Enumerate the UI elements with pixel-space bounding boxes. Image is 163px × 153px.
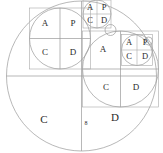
small-top-circle-label-d: D [101,15,107,25]
mid-right-circle-label-a: A [100,44,107,54]
top-left-circle-label-d: D [70,47,77,57]
main-circle-label-c: C [40,113,47,125]
diagram-caption: 8 [85,120,88,126]
small-right-circle-label-p: P [143,37,148,47]
pdca-fractal-diagram: C D 8 A P C D A C D A P C D A P C D [0,0,163,153]
small-right-circle-label-d: D [142,51,148,61]
small-right-circle-label-c: C [126,51,132,61]
top-left-circle-label-a: A [42,18,49,28]
tiny-circle-a [105,25,116,36]
top-left-circle-label-p: P [70,18,75,28]
small-top-circle-label-c: C [87,15,93,25]
small-top-circle-label-a: A [87,2,94,12]
mid-right-circle-label-d: D [133,82,140,92]
mid-right-circle-label-c: C [103,82,109,92]
pdca-diagram-canvas: C D 8 A P C D A C D A P C D A P C D [0,0,163,153]
top-left-circle-label-c: C [42,47,48,57]
small-top-circle-label-p: P [102,2,107,12]
main-circle-label-d: D [111,111,119,123]
small-right-circle-label-a: A [126,37,133,47]
